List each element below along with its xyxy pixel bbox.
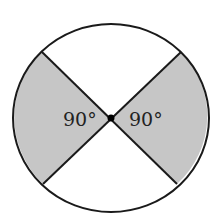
circle-diagram: 90° 90° — [0, 0, 219, 223]
right-angle-label: 90° — [129, 108, 163, 130]
left-angle-label: 90° — [63, 108, 97, 130]
center-point — [108, 115, 115, 122]
